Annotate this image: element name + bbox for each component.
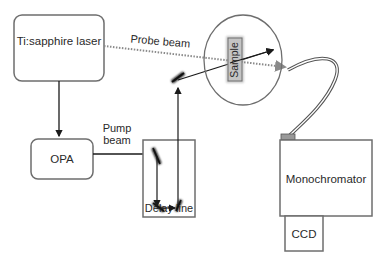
laser-box: Ti:sapphire laser — [14, 15, 104, 81]
sample-holder: Sample — [204, 15, 282, 105]
ccd-label: CCD — [292, 228, 317, 240]
opa-box: OPA — [31, 139, 93, 179]
optical-fiber — [288, 59, 337, 135]
monochromator-label: Monochromator — [286, 173, 367, 185]
steering-mirror — [172, 73, 184, 82]
pump-beam-label-2: beam — [103, 134, 131, 146]
opa-label: OPA — [50, 153, 74, 165]
pump-probe-diagram: Ti:sapphire laser OPA Pump beam Delay li… — [0, 0, 389, 263]
monochromator-box: Monochromator — [280, 134, 372, 216]
probe-beam — [104, 46, 285, 67]
laser-label: Ti:sapphire laser — [17, 35, 102, 47]
ccd-box: CCD — [285, 216, 323, 251]
probe-beam-label: Probe beam — [130, 32, 191, 49]
pump-beam-label-1: Pump — [103, 122, 132, 134]
delay-line-box: Delay line — [143, 140, 195, 217]
